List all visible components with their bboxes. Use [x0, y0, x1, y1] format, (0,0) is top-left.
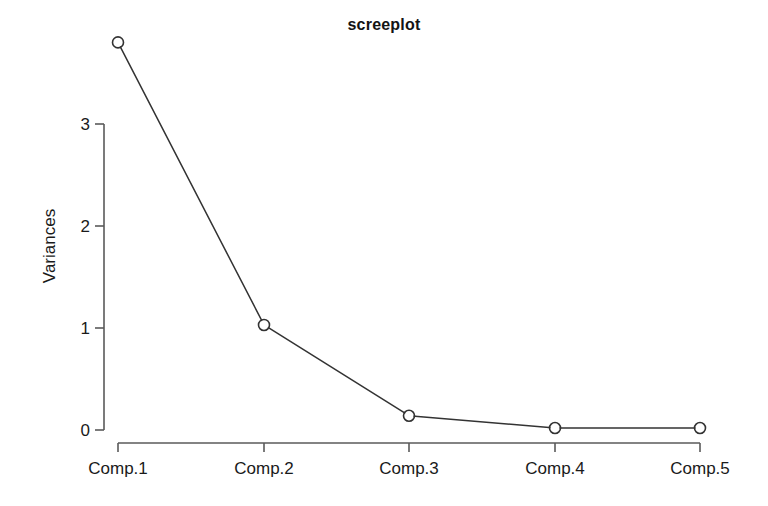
plot-canvas: [0, 0, 768, 506]
marker-interior: [550, 423, 559, 432]
marker-interior: [404, 411, 413, 420]
marker-interior: [259, 320, 268, 329]
variance-line: [118, 42, 700, 428]
marker-interior: [113, 38, 122, 47]
y-axis: [95, 124, 104, 430]
data-point-markers: [113, 37, 706, 434]
x-axis: [118, 443, 700, 452]
data-series: [113, 37, 706, 434]
marker-interior: [695, 423, 704, 432]
screeplot-figure: screeplot Variances 3 2 1 0 Comp.1 Comp.…: [0, 0, 768, 506]
